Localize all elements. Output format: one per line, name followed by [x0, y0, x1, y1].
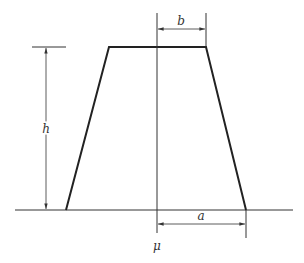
a-label: a	[197, 209, 204, 223]
h-label: h	[42, 122, 50, 136]
b-label: b	[177, 14, 185, 28]
trapezoid-shape	[66, 47, 246, 210]
mu-label: μ	[153, 239, 161, 253]
trapezoid-diagram: b h a μ	[0, 0, 304, 263]
